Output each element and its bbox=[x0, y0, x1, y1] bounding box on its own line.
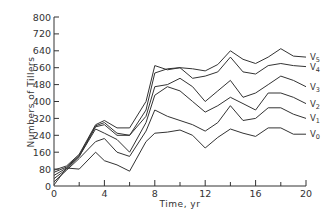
x-tick-label: 8 bbox=[152, 188, 158, 199]
y-tick-label: 80 bbox=[39, 164, 51, 175]
y-axis: 080160240320400480560640720800 bbox=[33, 12, 59, 192]
x-axis: 048121620 bbox=[51, 180, 312, 199]
y-tick-label: 800 bbox=[33, 12, 51, 23]
tillers-line-chart: 080160240320400480560640720800 048121620… bbox=[0, 0, 326, 214]
series-label-v1: V1 bbox=[310, 113, 320, 125]
series-line-v4 bbox=[54, 57, 306, 172]
y-tick-label: 720 bbox=[33, 28, 51, 39]
y-axis-title: Numbers of Tillers bbox=[26, 57, 36, 148]
series-label-v0: V0 bbox=[310, 129, 320, 141]
x-tick-label: 4 bbox=[101, 188, 107, 199]
series-labels: V5V4V3V2V1V0 bbox=[310, 52, 320, 141]
y-tick-label: 640 bbox=[33, 45, 51, 56]
series-label-v3: V3 bbox=[310, 82, 320, 94]
series-lines bbox=[54, 49, 306, 185]
series-label-v2: V2 bbox=[310, 99, 320, 111]
series-line-v0 bbox=[54, 128, 306, 185]
x-tick-label: 0 bbox=[51, 188, 57, 199]
x-tick-label: 20 bbox=[300, 188, 312, 199]
series-line-v5 bbox=[54, 49, 306, 171]
x-axis-title: Time, yr bbox=[159, 199, 201, 209]
series-line-v1 bbox=[54, 106, 306, 182]
x-tick-label: 16 bbox=[250, 188, 262, 199]
x-tick-label: 12 bbox=[199, 188, 211, 199]
